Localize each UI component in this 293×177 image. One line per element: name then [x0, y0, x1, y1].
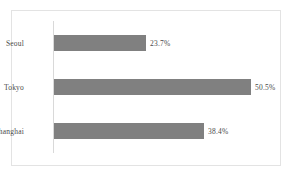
- category-label-seoul: Seoul: [0, 39, 24, 48]
- bar-shanghai[interactable]: [54, 123, 204, 139]
- bar-track: 38.4%: [54, 123, 280, 139]
- value-label-tokyo: 50.5%: [255, 83, 275, 92]
- bar-track: 23.7%: [54, 35, 280, 51]
- value-label-seoul: 23.7%: [150, 39, 170, 48]
- category-label-shanghai: Shanghai: [0, 127, 24, 136]
- bar-row: Shanghai 38.4%: [12, 123, 280, 139]
- plot-area: Seoul 23.7% Tokyo 50.5% Shanghai 38.4%: [12, 11, 280, 165]
- bar-row: Seoul 23.7%: [12, 35, 280, 51]
- chart-frame: Seoul 23.7% Tokyo 50.5% Shanghai 38.4%: [11, 10, 281, 166]
- bar-seoul[interactable]: [54, 35, 146, 51]
- category-label-tokyo: Tokyo: [0, 83, 24, 92]
- bar-row: Tokyo 50.5%: [12, 79, 280, 95]
- value-label-shanghai: 38.4%: [208, 127, 228, 136]
- bar-tokyo[interactable]: [54, 79, 251, 95]
- bar-track: 50.5%: [54, 79, 280, 95]
